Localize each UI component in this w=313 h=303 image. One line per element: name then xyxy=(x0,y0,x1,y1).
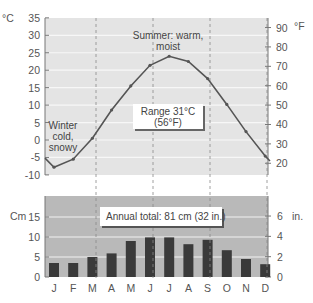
fahrenheit-tick-label: 20 xyxy=(276,157,288,169)
temperature-point xyxy=(244,130,247,133)
svg-text:cold,: cold, xyxy=(52,131,73,142)
temperature-point xyxy=(110,108,113,111)
month-label: J xyxy=(147,282,152,294)
temperature-unit-right: °F xyxy=(294,20,305,32)
precipitation-tick-label: 5 xyxy=(34,251,40,263)
precipitation-bar xyxy=(260,264,270,277)
precipitation-bar xyxy=(241,259,251,277)
temperature-point xyxy=(225,103,228,106)
inch-tick-label: 6 xyxy=(277,210,283,222)
temperature-point xyxy=(52,166,55,169)
month-label: S xyxy=(204,282,211,294)
month-label: N xyxy=(242,282,250,294)
range-annotation-box: Range 31°C (56°F) xyxy=(133,104,205,131)
precipitation-tick-label: 0 xyxy=(34,271,40,283)
month-label: J xyxy=(51,282,56,294)
svg-text:Range 31°C: Range 31°C xyxy=(141,106,196,117)
precipitation-bar xyxy=(222,250,232,277)
precipitation-bar xyxy=(107,253,117,277)
precipitation-bar xyxy=(126,241,136,277)
precipitation-bar xyxy=(49,263,59,277)
temperature-point xyxy=(148,64,151,67)
svg-text:snowy: snowy xyxy=(49,142,77,153)
precipitation-tick-label: 15 xyxy=(28,211,40,223)
temperature-point xyxy=(168,55,171,58)
temperature-point xyxy=(264,154,267,157)
temperature-point xyxy=(72,158,75,161)
month-axis: JFMAMJJASOND xyxy=(51,282,269,294)
month-label: M xyxy=(126,282,135,294)
temperature-point xyxy=(91,137,94,140)
fahrenheit-tick-label: 90 xyxy=(276,22,288,34)
month-label: J xyxy=(167,282,172,294)
temperature-point xyxy=(129,84,132,87)
precipitation-bar xyxy=(183,244,193,277)
fahrenheit-tick-label: 30 xyxy=(276,138,288,150)
precipitation-unit-left: Cm xyxy=(10,210,27,222)
month-label: F xyxy=(70,282,76,294)
temperature-point xyxy=(187,60,190,63)
precipitation-bar xyxy=(164,237,174,277)
fahrenheit-tick-label: 60 xyxy=(276,80,288,92)
precipitation-bar xyxy=(203,240,213,277)
precipitation-tick-label: 10 xyxy=(28,231,40,243)
month-label: D xyxy=(261,282,269,294)
month-label: A xyxy=(185,282,192,294)
temperature-tick-label: 25 xyxy=(28,47,40,59)
temperature-tick-label: 30 xyxy=(28,29,40,41)
temperature-unit-left: °C xyxy=(2,12,14,24)
svg-text:Summer: warm,: Summer: warm, xyxy=(133,30,204,41)
temperature-point xyxy=(206,77,209,80)
precipitation-bar xyxy=(68,263,78,277)
precipitation-unit-right: in. xyxy=(292,210,303,222)
inch-tick-label: 2 xyxy=(277,251,283,263)
temperature-tick-label: -10 xyxy=(25,169,40,181)
inch-tick-label: 0 xyxy=(277,271,283,283)
temperature-tick-label: -5 xyxy=(31,151,40,163)
temperature-tick-label: 15 xyxy=(28,82,40,94)
month-label: A xyxy=(108,282,115,294)
svg-text:Annual total: 81 cm (32 in.): Annual total: 81 cm (32 in.) xyxy=(106,211,226,222)
fahrenheit-tick-label: 50 xyxy=(276,99,288,111)
svg-text:Winter: Winter xyxy=(49,120,79,131)
fahrenheit-tick-label: 40 xyxy=(276,118,288,130)
svg-text:(56°F): (56°F) xyxy=(154,117,182,128)
temperature-tick-label: 10 xyxy=(28,99,40,111)
precipitation-bar xyxy=(145,237,155,277)
svg-text:moist: moist xyxy=(156,41,180,52)
temperature-tick-label: 35 xyxy=(28,12,40,24)
annual-total-box: Annual total: 81 cm (32 in.) xyxy=(100,207,226,228)
inch-tick-label: 4 xyxy=(277,230,283,242)
month-label: O xyxy=(223,282,231,294)
fahrenheit-tick-label: 70 xyxy=(276,60,288,72)
temperature-tick-label: 5 xyxy=(34,117,40,129)
fahrenheit-tick-label: 80 xyxy=(276,41,288,53)
temperature-tick-label: 0 xyxy=(34,134,40,146)
temperature-tick-label: 20 xyxy=(28,64,40,76)
month-label: M xyxy=(88,282,97,294)
